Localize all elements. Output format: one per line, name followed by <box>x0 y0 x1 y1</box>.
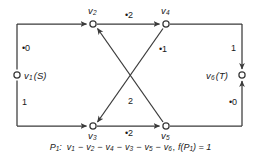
v1-node-circle <box>14 72 20 78</box>
caption-flow: f(P1) = 1 <box>178 142 211 152</box>
flow-network-figure: v1(S) v2 v3 v4 v5 v6(T) •0 1 •2 •2 1 •0 … <box>0 0 261 164</box>
edge-label-v1-v3: 1 <box>22 98 27 107</box>
v6-node-label: v6(T) <box>206 71 228 82</box>
v2-node-label: v2 <box>88 6 97 17</box>
edge-label-v4-v6: 1 <box>231 44 236 53</box>
v4-node-circle <box>163 21 169 27</box>
v4-node-label: v4 <box>161 6 170 17</box>
v1-node-label: v1(S) <box>24 71 46 82</box>
v6-node-circle <box>239 72 245 78</box>
caption-seq-v5: v5 <box>144 142 152 152</box>
v5-node-circle <box>163 123 169 129</box>
edge-label-v2-v4: •2 <box>125 11 133 20</box>
caption-seq-v1: v1 <box>67 142 75 152</box>
edge-label-v3-v5: •2 <box>125 129 133 138</box>
figure-caption: P1: v1 − v2 − v4 − v3 − v5 − v6, f(P1) =… <box>0 142 261 152</box>
edge-label-diagonal-upper: •1 <box>159 45 167 54</box>
caption-seq-v3: v3 <box>125 142 133 152</box>
graph-canvas <box>0 0 261 164</box>
caption-seq-v4: v4 <box>106 142 114 152</box>
v5-node-label: v5 <box>161 131 170 142</box>
caption-seq-v6: v6 <box>164 142 172 152</box>
v2-node-circle <box>90 21 96 27</box>
edge-label-diagonal-lower: 2 <box>128 97 133 106</box>
v3-node-circle <box>90 123 96 129</box>
edge-label-v1-v2: •0 <box>22 44 30 53</box>
v3-node-label: v3 <box>88 131 97 142</box>
edge-label-v5-v6: •0 <box>229 98 237 107</box>
